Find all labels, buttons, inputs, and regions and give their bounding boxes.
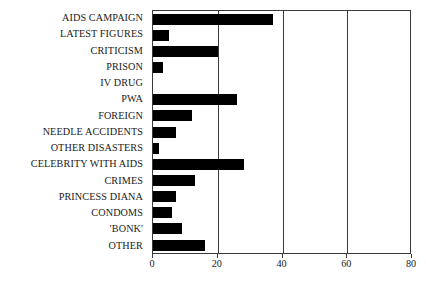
y-axis-label: NEEDLE ACCIDENTS	[0, 124, 148, 140]
bar	[153, 191, 176, 202]
bar	[153, 62, 163, 73]
bar	[153, 14, 273, 25]
x-axis-tick-label: 60	[341, 259, 351, 269]
bar-row	[153, 59, 410, 75]
bar-row	[153, 43, 410, 59]
bar	[153, 223, 182, 234]
y-axis-label: CRIMES	[0, 173, 148, 189]
y-axis-label: OTHER	[0, 238, 148, 254]
x-axis-tick-label: 80	[406, 259, 416, 269]
y-axis-label: PRISON	[0, 59, 148, 75]
bar-row	[153, 108, 410, 124]
y-axis-label: CONDOMS	[0, 205, 148, 221]
y-axis-label: IV DRUG	[0, 75, 148, 91]
x-axis: 020406080	[152, 254, 411, 278]
bar-row	[153, 11, 410, 27]
y-axis-label: PWA	[0, 91, 148, 107]
bar	[153, 143, 159, 154]
y-axis-label: AIDS CAMPAIGN	[0, 10, 148, 26]
y-axis-label: 'BONK'	[0, 221, 148, 237]
bar-chart: AIDS CAMPAIGNLATEST FIGURESCRITICISMPRIS…	[0, 0, 426, 281]
bar-row	[153, 221, 410, 237]
y-axis-category-labels: AIDS CAMPAIGNLATEST FIGURESCRITICISMPRIS…	[0, 10, 148, 254]
bar	[153, 159, 244, 170]
bar-row	[153, 27, 410, 43]
bar	[153, 175, 195, 186]
bar-row	[153, 172, 410, 188]
bar	[153, 127, 176, 138]
bar	[153, 240, 205, 251]
bar-row	[153, 124, 410, 140]
bar-row	[153, 189, 410, 205]
y-axis-label: FOREIGN	[0, 108, 148, 124]
plot-area	[152, 10, 411, 254]
y-axis-label: OTHER DISASTERS	[0, 140, 148, 156]
x-axis-tick-label: 40	[276, 259, 286, 269]
bar	[153, 110, 192, 121]
bar-row	[153, 156, 410, 172]
bar-row	[153, 205, 410, 221]
y-axis-label: CRITICISM	[0, 43, 148, 59]
bar-row	[153, 237, 410, 253]
bar	[153, 46, 218, 57]
bar	[153, 30, 169, 41]
bar-row	[153, 140, 410, 156]
bar	[153, 207, 172, 218]
y-axis-label: LATEST FIGURES	[0, 26, 148, 42]
x-axis-tick-label: 0	[149, 259, 154, 269]
y-axis-label: PRINCESS DIANA	[0, 189, 148, 205]
bar-row	[153, 92, 410, 108]
y-axis-label: CELEBRITY WITH AIDS	[0, 156, 148, 172]
bar-series	[153, 11, 410, 253]
bar	[153, 94, 237, 105]
bar-row	[153, 76, 410, 92]
x-axis-tick-label: 20	[212, 259, 222, 269]
